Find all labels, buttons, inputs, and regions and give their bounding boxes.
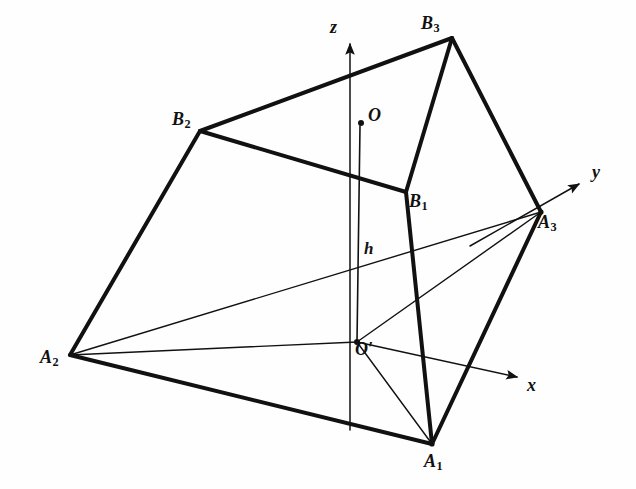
vertex-label-B3: B3 — [421, 14, 439, 32]
point-O-dot — [358, 120, 364, 126]
height-label-h: h — [364, 240, 373, 257]
point-label-O: O — [368, 106, 381, 124]
axis-y-line — [470, 184, 579, 246]
edge-Oprime-A3 — [357, 212, 541, 342]
edge-A3-A1 — [432, 212, 541, 444]
segment-h-Oprime-O — [357, 126, 360, 342]
axis-x-label: x — [527, 376, 536, 394]
prism-edges-group — [70, 38, 544, 447]
edge-B1-A1 — [406, 192, 432, 444]
axis-x-line — [357, 342, 517, 377]
thin-edges-group — [70, 120, 541, 444]
axis-z-label: z — [330, 18, 337, 36]
vertex-label-A1: A1 — [424, 452, 442, 470]
vertex-label-A2: A2 — [40, 348, 58, 366]
vertex-label-B2: B2 — [172, 110, 190, 128]
point-label-O-prime: O′ — [355, 340, 373, 358]
prism-diagram-svg — [0, 0, 636, 489]
edge-B2-B3 — [200, 38, 452, 131]
vertex-label-B1: B1 — [409, 192, 427, 210]
edge-A2-Oprime — [70, 342, 357, 355]
axis-y-label: y — [592, 163, 600, 181]
vertex-A1-dot — [429, 441, 434, 446]
edge-B1-B2 — [200, 131, 406, 192]
edge-B3-A3 — [452, 38, 541, 212]
edge-B3-B1 — [406, 38, 452, 192]
edge-A2-A1 — [70, 355, 432, 444]
figure-canvas: z y x B1 B2 B3 A1 A2 A3 O O′ h — [0, 0, 636, 489]
vertex-label-A3: A3 — [538, 213, 556, 231]
